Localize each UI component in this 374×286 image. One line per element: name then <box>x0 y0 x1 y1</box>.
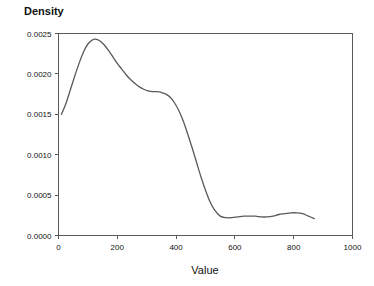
x-tick-label: 0 <box>56 243 61 252</box>
density-plot: 0.00000.00050.00100.00150.00200.0025 020… <box>0 0 374 286</box>
y-tick-label: 0.0025 <box>27 30 52 39</box>
density-curve <box>61 39 314 218</box>
y-tick-label: 0.0015 <box>27 110 52 119</box>
y-axis-tick-labels: 0.00000.00050.00100.00150.00200.0025 <box>27 30 52 241</box>
plot-area-border <box>59 34 353 236</box>
y-axis-ticks <box>55 34 59 236</box>
x-tick-label: 600 <box>228 243 242 252</box>
x-tick-label: 200 <box>111 243 125 252</box>
y-tick-label: 0.0020 <box>27 70 52 79</box>
plot-frame <box>59 34 353 236</box>
x-axis-ticks <box>59 236 353 240</box>
x-tick-label: 800 <box>287 243 301 252</box>
y-axis-title: Density <box>24 5 65 17</box>
x-tick-label: 400 <box>169 243 183 252</box>
chart-canvas: 0.00000.00050.00100.00150.00200.0025 020… <box>0 0 374 286</box>
y-tick-label: 0.0000 <box>27 232 52 241</box>
y-tick-label: 0.0005 <box>27 191 52 200</box>
x-tick-label: 1000 <box>344 243 362 252</box>
x-axis-title: Value <box>191 264 218 276</box>
y-tick-label: 0.0010 <box>27 151 52 160</box>
x-axis-tick-labels: 02004006008001000 <box>56 243 362 252</box>
